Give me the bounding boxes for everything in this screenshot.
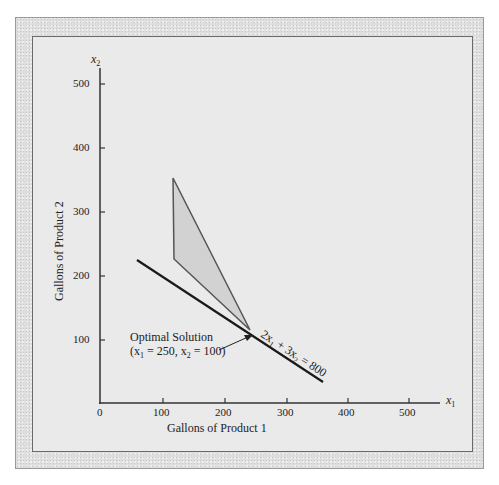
x-tick-label: 100 — [153, 406, 170, 418]
origin-label: 0 — [97, 406, 103, 418]
y-tick-label: 300 — [73, 205, 90, 217]
optimal-solution-title: Optimal Solution — [130, 330, 213, 345]
y-tick-label: 400 — [73, 141, 90, 153]
y-axis-title: Gallons of Product 2 — [52, 201, 67, 301]
x-axis-symbol: x1 — [446, 393, 455, 409]
x-tick-label: 400 — [338, 406, 355, 418]
chart-plot — [0, 0, 499, 485]
optimal-solution-values: (x1 = 250, x2 = 100) — [130, 344, 226, 360]
x-axis-title: Gallons of Product 1 — [167, 421, 267, 436]
x-tick-label: 300 — [277, 406, 294, 418]
y-axis-symbol: x2 — [91, 52, 100, 68]
x-tick-label: 200 — [215, 406, 232, 418]
feasible-region — [173, 178, 250, 330]
y-tick-label: 500 — [73, 77, 90, 89]
y-tick-label: 100 — [73, 333, 90, 345]
y-tick-label: 200 — [73, 269, 90, 281]
x-tick-label: 500 — [399, 406, 416, 418]
